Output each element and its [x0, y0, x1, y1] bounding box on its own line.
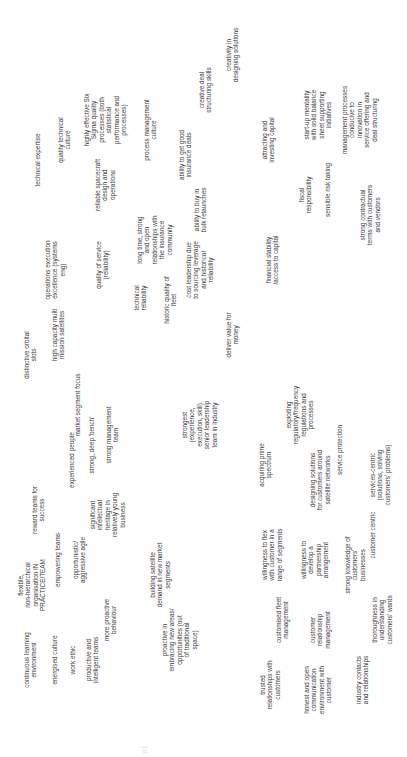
node-customised-fleet: customised fleet management: [275, 597, 290, 643]
node-senior-leadership: strongest (experience, execution, skill)…: [181, 401, 218, 450]
node-value-for-money: deliver value for money: [225, 312, 240, 357]
node-fiscal-responsibility: fiscal responsibility: [298, 177, 313, 214]
node-productive-teams: productive and intelligent teams: [85, 637, 100, 683]
node-technical-expertise: technical expertise: [34, 134, 41, 187]
node-thoroughness: thoroughness in understanding customers'…: [371, 595, 393, 644]
node-financial-stability: financial stability /access to capital: [265, 235, 280, 284]
node-flexible-organisation: flexible, non-hierarchical organisation …: [17, 559, 47, 611]
node-technical-reliability: technical reliability: [133, 285, 148, 310]
node-market-segment-focus: market segment focus: [74, 374, 81, 437]
node-honest-communication: honest and open communication environmen…: [303, 666, 333, 714]
node-six-sigma: highly effective Six Sigma quality proce…: [83, 94, 127, 147]
node-customer-centric: customer centric: [369, 512, 376, 559]
node-insurance-relationships: long time, strong and open relationships…: [136, 215, 173, 264]
node-designing-solutions: designing solutions for customers around…: [309, 450, 331, 510]
node-continuous-learning: continuous learning environment: [23, 632, 38, 687]
node-cost-leadership: cost leadership due to sourcing leverage…: [185, 241, 215, 299]
node-management-processes: management processes conducive to innova…: [341, 86, 378, 154]
node-contractual-terms: strong contractual terms with customers …: [359, 185, 381, 245]
node-services-centric: services-centric (solutions, solving cus…: [369, 445, 391, 506]
node-willingness-flex: willingness to flex with customer in a r…: [261, 529, 283, 582]
node-quality-of-service: quality of service (reliability): [95, 241, 110, 289]
node-customer-relationship-mgmt: customer relationship management: [309, 611, 331, 648]
node-trusted-relationships: trusted relationships with customers: [259, 660, 281, 709]
node-creative-deal-structuring: creative deal structuring skills: [198, 67, 213, 112]
node-sensible-risk: sensible risk taking: [324, 163, 331, 217]
node-willingness-partnership: willingness to develop a partnership arr…: [300, 541, 330, 579]
node-bulk-relaunches: ability to buy in bulk relaunches: [193, 188, 208, 233]
node-high-capacity-satellites: high capacity multi mission satellites: [51, 309, 66, 362]
node-experienced-people: experienced people: [68, 432, 75, 488]
node-creativity-solutions: creativity in designing solutions: [225, 28, 240, 82]
node-quality-technical-culture: quality technical culture: [57, 117, 72, 162]
node-intellectual-heritage: significant intellectual heritage in rel…: [89, 493, 126, 537]
node-startup-mentality: start-up mentality with solid balance sh…: [303, 90, 333, 140]
node-exploiting-regulations: exploiting regulatory/frequency regulati…: [285, 386, 315, 444]
node-opportunistic: opportunistic/ aggressive agile: [72, 537, 87, 583]
node-knowledge-businesses: strong knowledge of customers' businesse…: [344, 536, 366, 593]
node-industry-contacts: industry contacts and relationships: [355, 656, 370, 704]
node-work-ethic: work ethic: [69, 646, 76, 675]
node-orbital-slots: distinctive orbital slots: [23, 331, 38, 378]
node-satellite-demand: building satellite demand in new market …: [149, 543, 171, 608]
node-energised-culture: energised culture: [51, 635, 58, 684]
node-strong-management-team: strong management team: [105, 407, 120, 464]
node-attracting-capital: attracting and investing capital: [261, 117, 276, 162]
node-operations-execution: operations execution excellence (systems…: [44, 241, 66, 300]
page-number: 81: [140, 745, 149, 754]
node-reward-teams: reward teams for success: [31, 486, 46, 534]
node-empowering-teams: empowering teams: [54, 533, 61, 587]
node-historic-fleet-quality: historic quality of fleet: [163, 276, 178, 324]
node-strong-bench: strong, deep 'bench': [88, 416, 95, 473]
node-insurance-deals: ability to get good insurance deals: [178, 130, 193, 180]
node-process-management: process management culture: [143, 99, 158, 160]
node-proactive-new-areas: proactive in embracing new areas/ opport…: [161, 609, 198, 672]
node-reliable-spacecraft: reliable spacecraft design and operation…: [94, 159, 116, 211]
node-acquiring-spectrum: acquiring prime spectrum: [258, 443, 273, 487]
node-proactive-behaviour: more proactive behaviour: [103, 599, 118, 641]
node-service-protection: service protection: [336, 425, 343, 475]
